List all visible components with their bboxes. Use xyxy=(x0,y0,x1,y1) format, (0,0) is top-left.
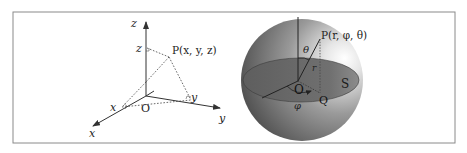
y-projection-label: y xyxy=(190,91,198,104)
x-axis-label: x xyxy=(89,127,96,140)
plane-label: S xyxy=(341,77,349,91)
x-axis-negative xyxy=(146,91,154,96)
cartesian-point-label: P(x, y, z) xyxy=(172,44,217,56)
theta-label: θ xyxy=(303,44,309,55)
coordinate-systems-figure: z z P(x, y, z) y x O y x P(r, φ, θ) θ r … xyxy=(0,0,467,153)
radius-label: r xyxy=(312,63,317,73)
cartesian-diagram: z z P(x, y, z) y x O y x xyxy=(89,17,226,140)
z-projection-label: z xyxy=(135,42,142,55)
x-projection-label: x xyxy=(110,101,117,114)
spherical-diagram: P(r, φ, θ) θ r S O Q φ xyxy=(241,17,367,141)
spherical-origin-label: O xyxy=(294,83,304,97)
figure-frame xyxy=(13,12,455,143)
x-axis xyxy=(93,96,146,126)
cartesian-origin-label: O xyxy=(141,102,150,115)
projection-point-label: Q xyxy=(319,94,328,107)
y-axis xyxy=(146,96,220,108)
y-axis-label: y xyxy=(218,112,226,125)
spherical-point-label: P(r, φ, θ) xyxy=(321,29,367,41)
phi-label: φ xyxy=(294,100,301,111)
z-axis-label: z xyxy=(130,17,137,30)
